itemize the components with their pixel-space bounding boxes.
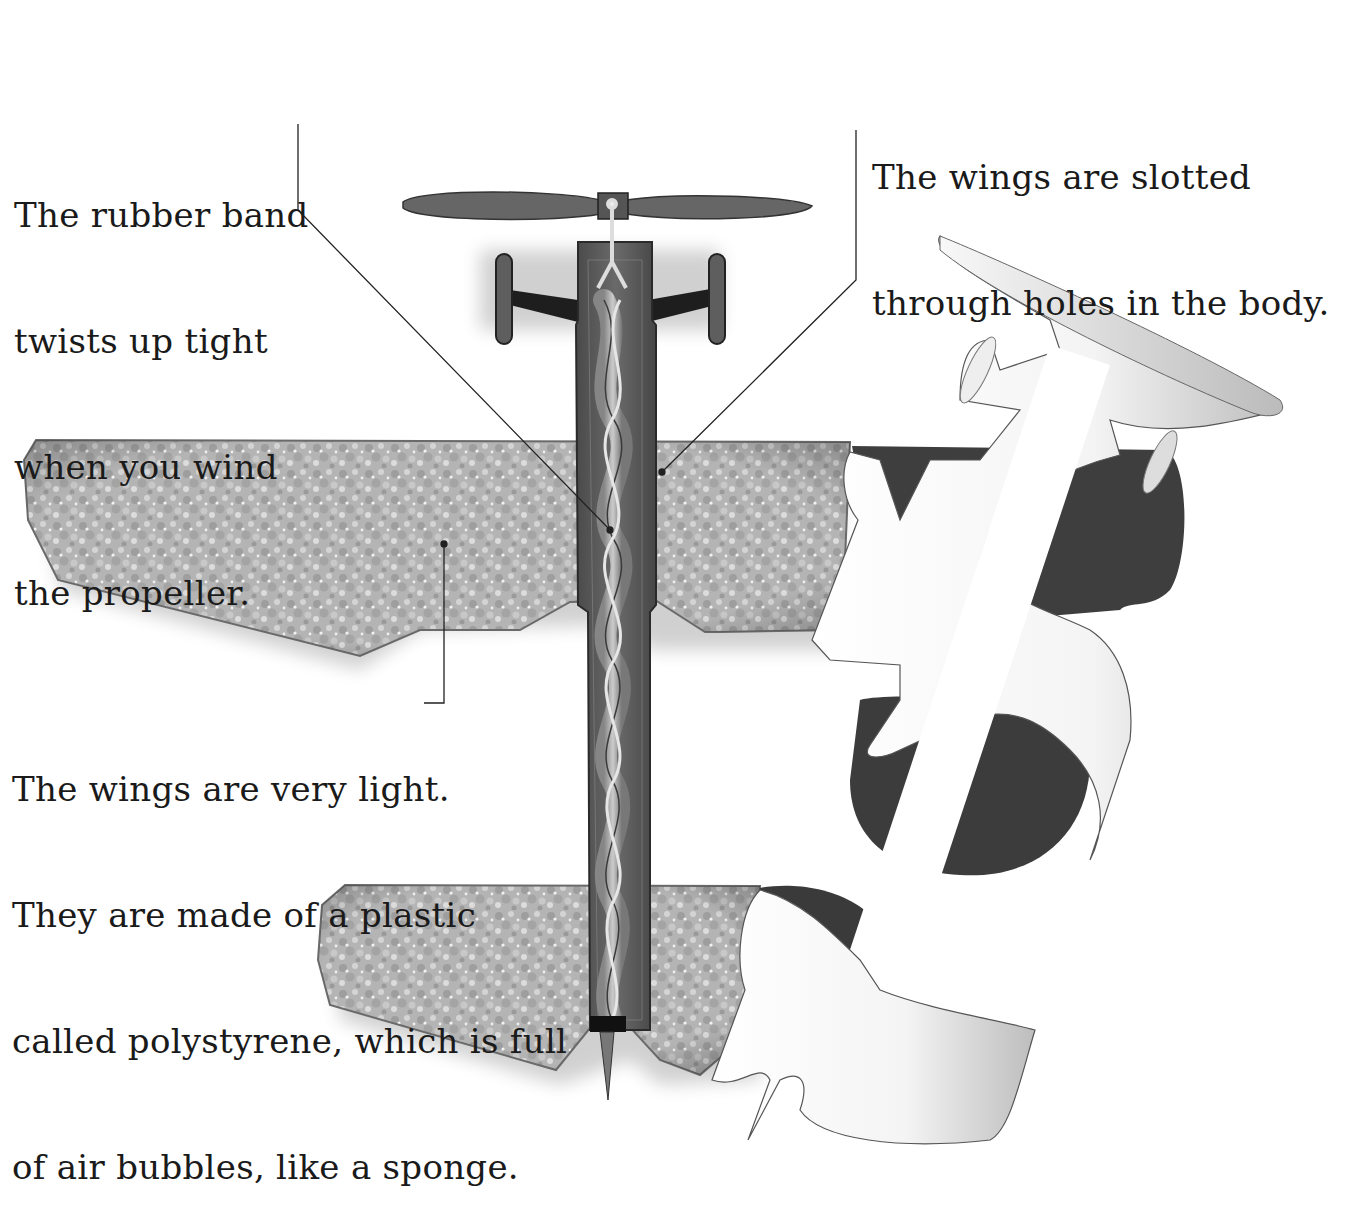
annotation-wings-slotted: The wings are slotted through holes in t… bbox=[872, 72, 1330, 366]
wheel-left bbox=[496, 254, 512, 344]
annotation-line: The wings are very light. bbox=[12, 768, 567, 810]
annotation-line: The rubber band bbox=[14, 194, 309, 236]
annotation-rubber-band: The rubber band twists up tight when you… bbox=[14, 110, 309, 656]
annotation-line: The wings are slotted bbox=[872, 156, 1330, 198]
wheel-right bbox=[709, 254, 725, 344]
annotation-wings-light: The wings are very light. They are made … bbox=[12, 684, 567, 1226]
annotation-line: of air bubbles, like a sponge. bbox=[12, 1146, 567, 1188]
annotation-line: They are made of a plastic bbox=[12, 894, 567, 936]
annotation-line: through holes in the body. bbox=[872, 282, 1330, 324]
annotation-line: twists up tight bbox=[14, 320, 309, 362]
peel-away-cutout bbox=[712, 236, 1283, 1144]
annotation-line: the propeller. bbox=[14, 572, 309, 614]
annotation-line: called polystyrene, which is full bbox=[12, 1020, 567, 1062]
propeller bbox=[403, 192, 812, 288]
twisted-rubber-band bbox=[604, 300, 622, 1020]
annotation-line: when you wind bbox=[14, 446, 309, 488]
